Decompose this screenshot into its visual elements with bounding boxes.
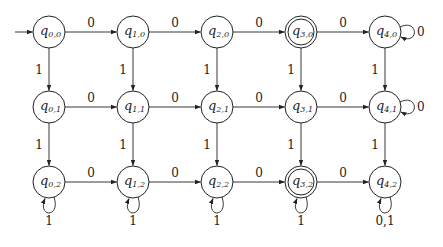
- transition-label: 0: [417, 25, 425, 39]
- state-node: q0,0: [33, 16, 65, 48]
- transition-labels-layer: 00000000000011111111110011110,1: [35, 16, 424, 228]
- transition-label: 0: [339, 91, 347, 105]
- self-loop-edge: [400, 25, 414, 39]
- self-loop-edge: [379, 197, 391, 213]
- transition-label: 1: [119, 138, 127, 152]
- transition-label: 1: [35, 63, 43, 77]
- transition-label: 1: [287, 138, 295, 152]
- transition-label: 0: [255, 16, 263, 30]
- dfa-diagram: q0,0q1,0q2,0q3,0q4,0q0,1q1,1q2,1q3,1q4,1…: [0, 0, 443, 247]
- transition-label: 0: [171, 16, 179, 30]
- transition-label: 0: [171, 91, 179, 105]
- transition-label: 0: [87, 91, 95, 105]
- state-node: q4,0: [369, 16, 401, 48]
- state-node: q2,1: [201, 91, 233, 123]
- state-node: q4,2: [369, 166, 401, 198]
- transition-label: 1: [371, 63, 379, 77]
- self-loop-edge: [211, 197, 223, 213]
- state-node: q1,0: [117, 16, 149, 48]
- transition-label: 0: [255, 91, 263, 105]
- transition-label: 1: [287, 63, 295, 77]
- transition-label: 1: [371, 138, 379, 152]
- state-node: q3,1: [285, 91, 317, 123]
- transition-label: 1: [129, 214, 137, 228]
- state-node: q0,1: [33, 91, 65, 123]
- transition-label: 0: [339, 166, 347, 180]
- transition-label: 1: [203, 63, 211, 77]
- transition-label: 1: [213, 214, 221, 228]
- transition-label: 0: [417, 100, 425, 114]
- self-loop-edge: [127, 197, 139, 213]
- self-loop-edge: [43, 197, 55, 213]
- state-node: q4,1: [369, 91, 401, 123]
- state-node: q2,0: [201, 16, 233, 48]
- transition-label: 1: [119, 63, 127, 77]
- state-node: q1,1: [117, 91, 149, 123]
- accept-state-node: q3,2: [285, 166, 317, 198]
- state-node: q2,2: [201, 166, 233, 198]
- state-node: q0,2: [33, 166, 65, 198]
- transition-label: 1: [45, 214, 53, 228]
- transition-label: 0: [87, 16, 95, 30]
- transition-label: 1: [35, 138, 43, 152]
- state-node: q1,2: [117, 166, 149, 198]
- self-loop-edge: [400, 100, 414, 114]
- transition-label: 0: [171, 166, 179, 180]
- transition-label: 0,1: [375, 214, 394, 228]
- transition-label: 1: [203, 138, 211, 152]
- accept-state-node: q3,0: [285, 16, 317, 48]
- transition-label: 0: [87, 166, 95, 180]
- transition-label: 1: [297, 214, 305, 228]
- transition-label: 0: [255, 166, 263, 180]
- self-loop-edge: [295, 197, 307, 213]
- transition-label: 0: [339, 16, 347, 30]
